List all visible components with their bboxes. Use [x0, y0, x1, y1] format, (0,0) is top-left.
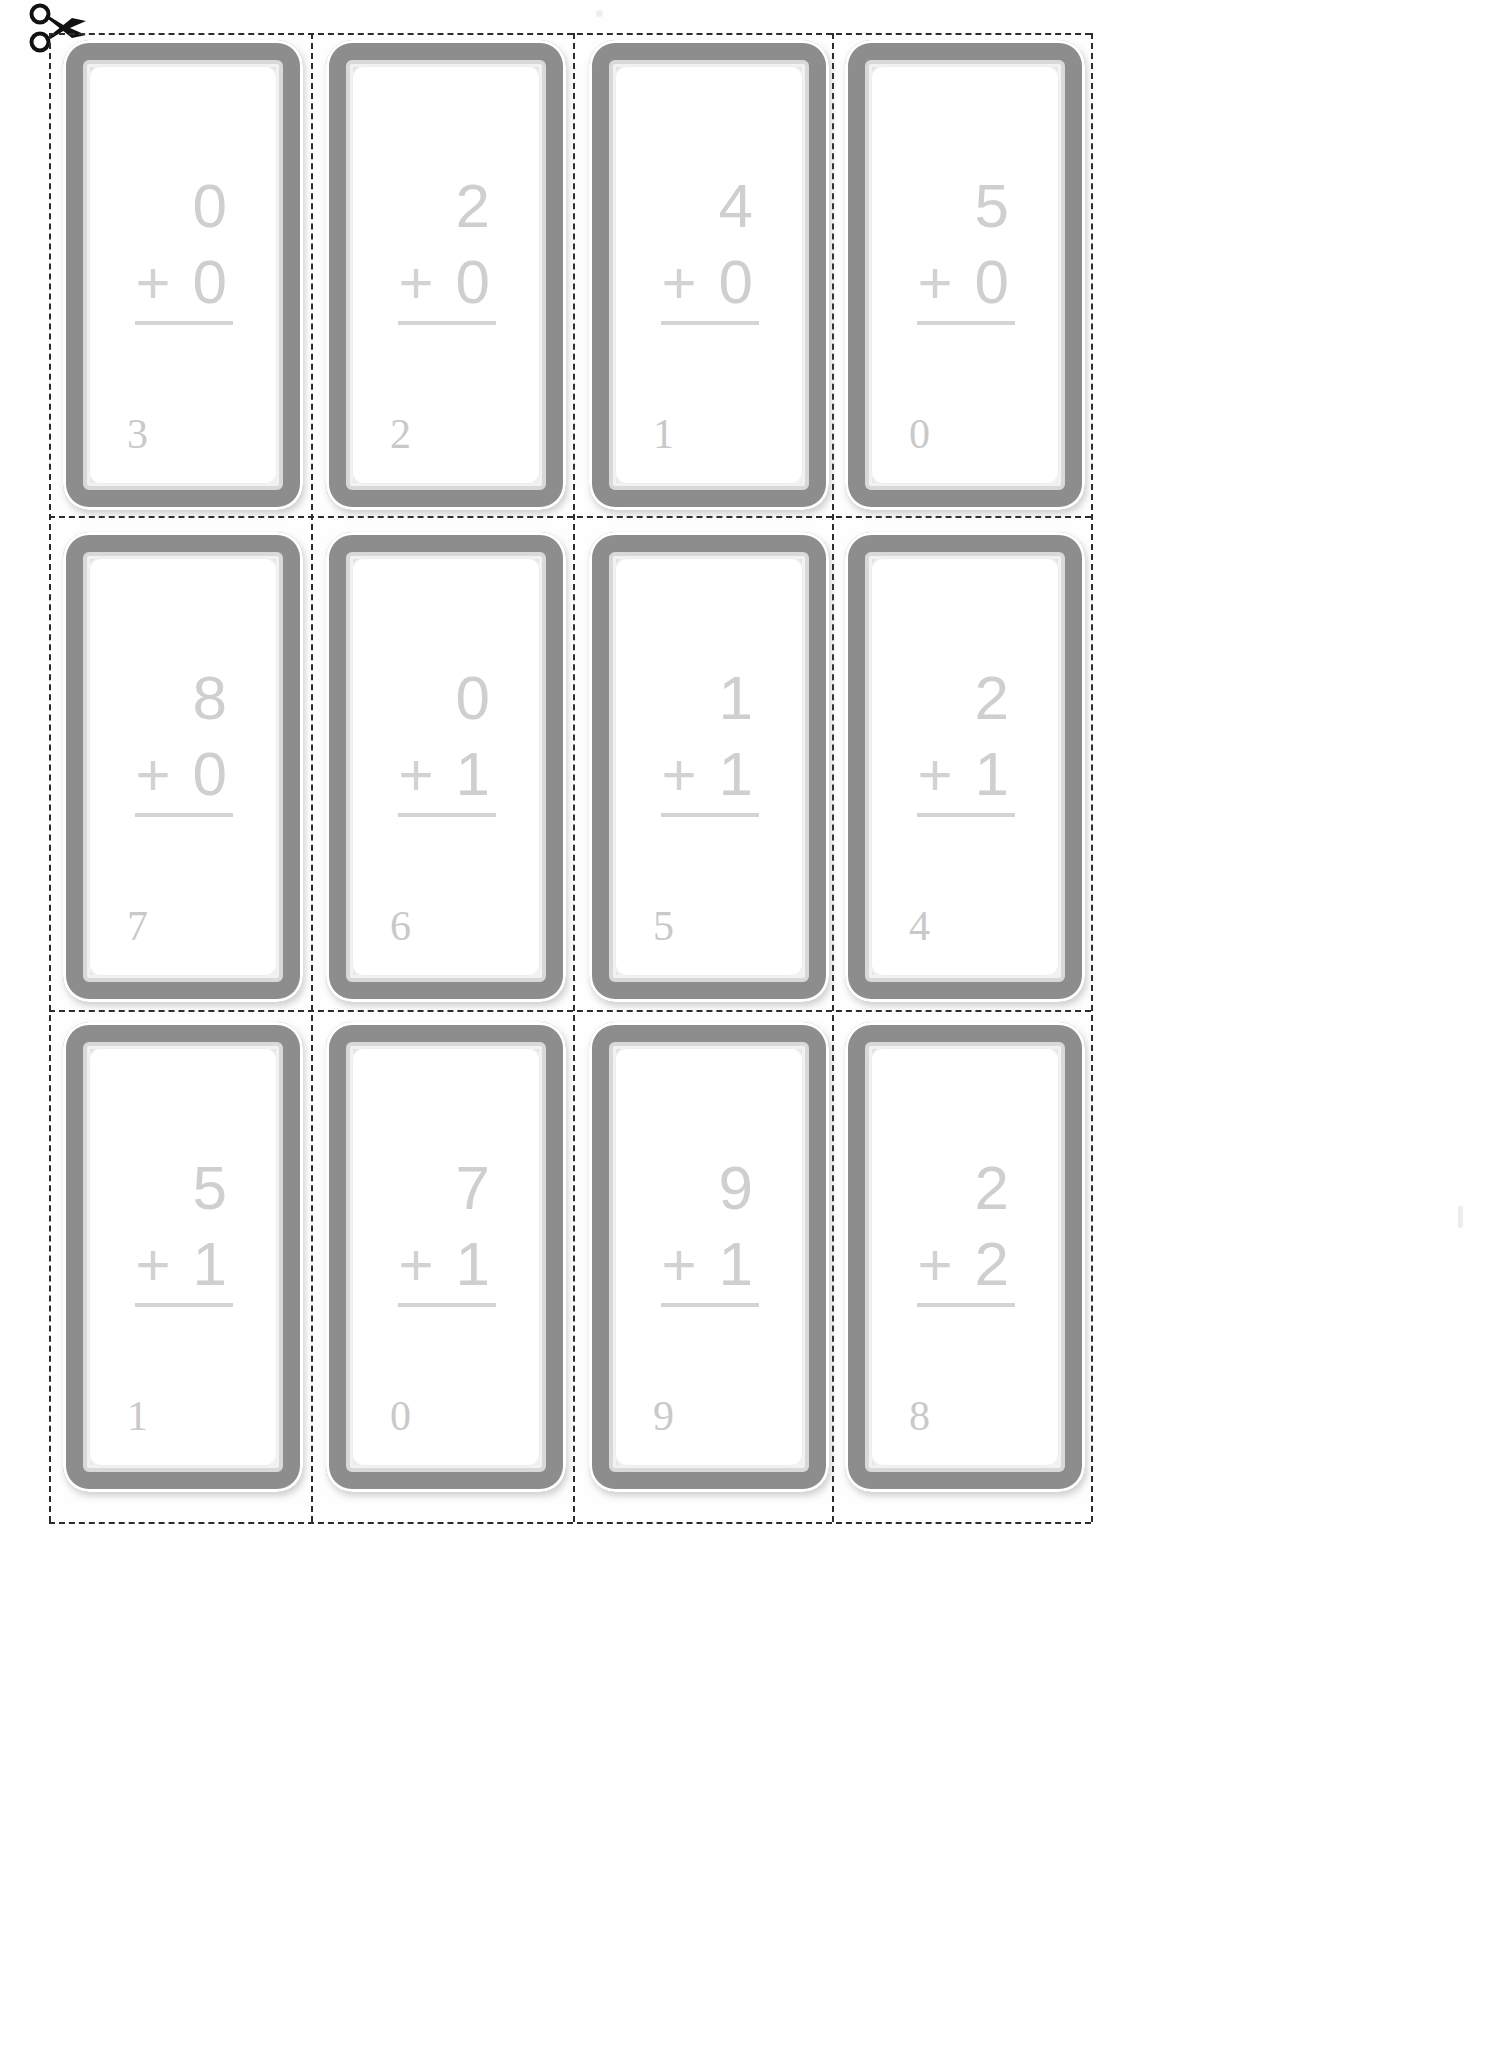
flashcard[interactable]: 1+15	[589, 532, 829, 1002]
addition-problem: 1+1	[661, 667, 759, 817]
card-index-number: 3	[127, 410, 148, 458]
top-addend: 2	[398, 175, 496, 237]
bottom-addend: 1	[719, 743, 755, 805]
bottom-addend: 1	[456, 1233, 492, 1295]
flashcard[interactable]: 9+19	[589, 1022, 829, 1492]
top-addend: 9	[661, 1157, 759, 1219]
plus-operator: +	[398, 745, 433, 805]
bottom-addend: 1	[456, 743, 492, 805]
top-addend: 5	[135, 1157, 233, 1219]
plus-operator: +	[661, 253, 696, 313]
card-index-number: 1	[653, 410, 674, 458]
card-index-number: 6	[390, 902, 411, 950]
card-index-number: 2	[390, 410, 411, 458]
flashcard[interactable]: 2+02	[326, 40, 566, 510]
top-addend: 5	[917, 175, 1015, 237]
addition-problem: 2+0	[398, 175, 496, 325]
flashcard-face: 9+19	[615, 1048, 803, 1466]
card-index-number: 4	[909, 902, 930, 950]
flashcard-face: 8+07	[89, 558, 277, 976]
card-index-number: 0	[390, 1392, 411, 1440]
top-addend: 0	[398, 667, 496, 729]
top-addend: 2	[917, 1157, 1015, 1219]
operator-and-bottom-addend-row: +1	[917, 743, 1015, 817]
flashcard[interactable]: 2+14	[845, 532, 1085, 1002]
plus-operator: +	[661, 745, 696, 805]
bottom-addend: 0	[193, 743, 229, 805]
bottom-addend: 0	[456, 251, 492, 313]
plus-operator: +	[398, 1235, 433, 1295]
operator-and-bottom-addend-row: +0	[917, 251, 1015, 325]
bottom-addend: 0	[975, 251, 1011, 313]
flashcard-face: 4+01	[615, 66, 803, 484]
addition-problem: 0+0	[135, 175, 233, 325]
operator-and-bottom-addend-row: +0	[135, 251, 233, 325]
flashcard-face: 7+10	[352, 1048, 540, 1466]
card-index-number: 1	[127, 1392, 148, 1440]
addition-problem: 8+0	[135, 667, 233, 817]
addition-problem: 0+1	[398, 667, 496, 817]
flashcard[interactable]: 4+01	[589, 40, 829, 510]
top-addend: 4	[661, 175, 759, 237]
plus-operator: +	[917, 253, 952, 313]
addition-problem: 5+0	[917, 175, 1015, 325]
flashcard[interactable]: 0+03	[63, 40, 303, 510]
flashcard[interactable]: 8+07	[63, 532, 303, 1002]
flashcard-sheet: 0+032+024+015+008+070+161+152+145+117+10…	[0, 0, 1502, 2072]
flashcard-face: 0+16	[352, 558, 540, 976]
flashcard-face: 0+03	[89, 66, 277, 484]
card-index-number: 9	[653, 1392, 674, 1440]
bottom-addend: 1	[719, 1233, 755, 1295]
top-addend: 7	[398, 1157, 496, 1219]
operator-and-bottom-addend-row: +2	[917, 1233, 1015, 1307]
operator-and-bottom-addend-row: +0	[661, 251, 759, 325]
operator-and-bottom-addend-row: +1	[398, 743, 496, 817]
top-addend: 8	[135, 667, 233, 729]
operator-and-bottom-addend-row: +0	[135, 743, 233, 817]
flashcard-face: 5+11	[89, 1048, 277, 1466]
card-grid: 0+032+024+015+008+070+161+152+145+117+10…	[0, 0, 1502, 2072]
plus-operator: +	[917, 1235, 952, 1295]
addition-problem: 2+2	[917, 1157, 1015, 1307]
top-addend: 2	[917, 667, 1015, 729]
operator-and-bottom-addend-row: +1	[135, 1233, 233, 1307]
flashcard-face: 2+02	[352, 66, 540, 484]
operator-and-bottom-addend-row: +1	[661, 1233, 759, 1307]
plus-operator: +	[135, 745, 170, 805]
flashcard-face: 2+14	[871, 558, 1059, 976]
top-addend: 1	[661, 667, 759, 729]
addition-problem: 2+1	[917, 667, 1015, 817]
plus-operator: +	[135, 1235, 170, 1295]
flashcard-face: 2+28	[871, 1048, 1059, 1466]
card-index-number: 0	[909, 410, 930, 458]
plus-operator: +	[917, 745, 952, 805]
addition-problem: 4+0	[661, 175, 759, 325]
bottom-addend: 0	[719, 251, 755, 313]
bottom-addend: 1	[975, 743, 1011, 805]
bottom-addend: 2	[975, 1233, 1011, 1295]
flashcard[interactable]: 0+16	[326, 532, 566, 1002]
operator-and-bottom-addend-row: +1	[398, 1233, 496, 1307]
operator-and-bottom-addend-row: +1	[661, 743, 759, 817]
addition-problem: 7+1	[398, 1157, 496, 1307]
operator-and-bottom-addend-row: +0	[398, 251, 496, 325]
flashcard[interactable]: 5+00	[845, 40, 1085, 510]
plus-operator: +	[661, 1235, 696, 1295]
card-index-number: 8	[909, 1392, 930, 1440]
flashcard[interactable]: 5+11	[63, 1022, 303, 1492]
plus-operator: +	[398, 253, 433, 313]
bottom-addend: 1	[193, 1233, 229, 1295]
flashcard[interactable]: 7+10	[326, 1022, 566, 1492]
addition-problem: 9+1	[661, 1157, 759, 1307]
flashcard-face: 1+15	[615, 558, 803, 976]
addition-problem: 5+1	[135, 1157, 233, 1307]
bottom-addend: 0	[193, 251, 229, 313]
plus-operator: +	[135, 253, 170, 313]
top-addend: 0	[135, 175, 233, 237]
card-index-number: 5	[653, 902, 674, 950]
flashcard[interactable]: 2+28	[845, 1022, 1085, 1492]
flashcard-face: 5+00	[871, 66, 1059, 484]
card-index-number: 7	[127, 902, 148, 950]
